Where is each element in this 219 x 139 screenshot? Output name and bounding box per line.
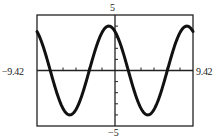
x-max-label: 9.42 xyxy=(196,67,212,77)
y-min-label: −5 xyxy=(108,128,119,138)
y-max-label: 5 xyxy=(110,3,115,13)
chart-plot xyxy=(0,0,219,139)
x-min-label: −9.42 xyxy=(2,67,24,77)
